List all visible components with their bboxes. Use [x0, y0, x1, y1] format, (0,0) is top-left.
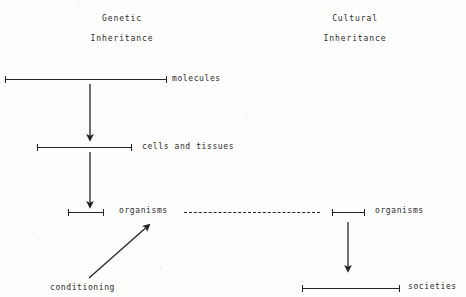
diagram-canvas: Genetic Inheritance Cultural Inheritance… [0, 0, 466, 297]
arrow-conditioning-to-organisms [89, 225, 149, 278]
paper-speck [78, 6, 79, 7]
paper-speck [33, 232, 34, 233]
paper-speck [160, 268, 161, 269]
connector-arrows [0, 0, 466, 297]
paper-speck [437, 256, 438, 257]
paper-speck [246, 118, 247, 119]
paper-speck [410, 40, 411, 41]
